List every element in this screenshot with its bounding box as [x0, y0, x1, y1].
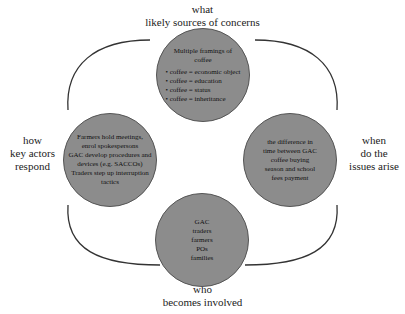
- timing-line: fees payment: [271, 174, 308, 183]
- framing-item: coffee = status: [165, 86, 240, 95]
- label-when-line1: when: [345, 134, 403, 147]
- framing-item: coffee = inheritance: [165, 95, 240, 104]
- actor-line: GAC: [195, 218, 210, 227]
- framings-list: coffee = economic object coffee = educat…: [165, 68, 240, 104]
- label-when: when do the issues arise: [345, 134, 403, 173]
- label-how-line3: respond: [5, 160, 60, 173]
- framing-item: coffee = education: [165, 77, 240, 86]
- framing-item: coffee = economic object: [165, 68, 240, 77]
- circle-involved-actors: GAC traders farmers POs families: [155, 193, 249, 287]
- label-how: how key actors respond: [5, 134, 60, 173]
- label-what: what likely sources of concerns: [130, 3, 275, 29]
- circle-sources-of-concerns: Multiple framings of coffee coffee = eco…: [156, 28, 250, 122]
- response-line: enrol spokespersons: [82, 142, 139, 151]
- response-line: tactics: [101, 178, 119, 187]
- label-who-line2: becomes involved: [140, 296, 265, 309]
- label-what-line1: what: [130, 3, 275, 16]
- label-when-line3: issues arise: [345, 160, 403, 173]
- label-when-line2: do the: [345, 147, 403, 160]
- label-how-line1: how: [5, 134, 60, 147]
- circle-top-title: Multiple framings of coffee: [170, 47, 236, 65]
- actor-line: families: [191, 254, 214, 263]
- circle-actor-responses: Farmers hold meetings, enrol spokesperso…: [63, 113, 157, 207]
- circle-timing: the difference in time between GAC coffe…: [243, 113, 337, 207]
- actor-line: farmers: [191, 236, 212, 245]
- response-line: devices (e.g. SACCOs): [77, 160, 142, 169]
- response-line: Farmers hold meetings,: [77, 133, 143, 142]
- actor-line: traders: [192, 227, 211, 236]
- label-how-line2: key actors: [5, 147, 60, 160]
- timing-line: season and school: [265, 165, 316, 174]
- actor-line: POs: [196, 245, 208, 254]
- response-line: GAC develop procedures and: [68, 151, 151, 160]
- response-line: Traders step up interruption: [71, 169, 149, 178]
- timing-line: the difference in: [267, 138, 313, 147]
- timing-line: time between GAC: [263, 147, 317, 156]
- timing-line: coffee buying: [271, 156, 310, 165]
